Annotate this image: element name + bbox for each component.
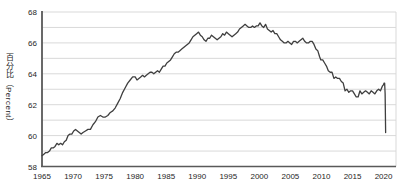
x-tick-label: 2010 — [313, 172, 331, 181]
x-tick-label: 2005 — [282, 172, 300, 181]
x-tick-label: 1965 — [33, 172, 51, 181]
chart-canvas: 586062646668 196519701975198019851990199… — [0, 0, 405, 195]
x-tick-label: 1975 — [95, 172, 113, 181]
y-tick-label: 60 — [28, 132, 37, 141]
x-tick-label: 1985 — [157, 172, 175, 181]
y-tick-label: 64 — [28, 70, 37, 79]
y-tick-label: 58 — [28, 163, 37, 172]
x-tick-label: 1970 — [64, 172, 82, 181]
x-tick-label: 1990 — [188, 172, 206, 181]
x-tick-label: 1995 — [219, 172, 237, 181]
x-tick-label: 2015 — [344, 172, 362, 181]
x-tick-label: 1980 — [126, 172, 144, 181]
chart-figure: 586062646668 196519701975198019851990199… — [0, 0, 405, 195]
y-tick-label: 66 — [28, 39, 37, 48]
x-tick-label: 2020 — [375, 172, 393, 181]
y-tick-label: 68 — [28, 8, 37, 17]
x-axis-tick-labels: 1965197019751980198519901995200020052010… — [33, 172, 393, 181]
gridlines — [42, 12, 396, 167]
y-axis-tick-labels: 586062646668 — [28, 8, 37, 172]
x-tick-label: 2000 — [250, 172, 268, 181]
y-tick-label: 62 — [28, 101, 37, 110]
